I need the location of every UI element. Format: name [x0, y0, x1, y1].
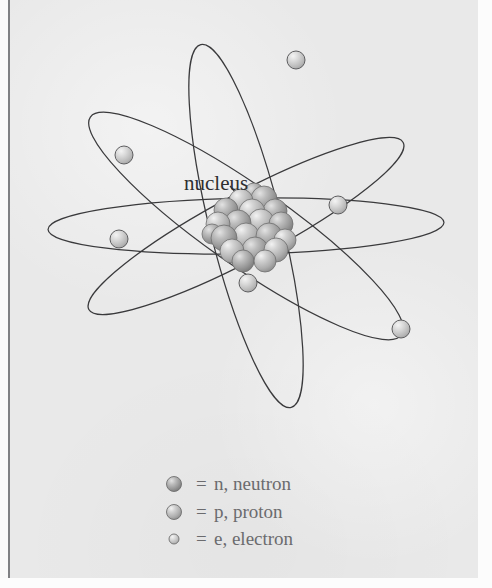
legend-label-proton: p, proton: [214, 501, 283, 522]
proton-particle: [254, 250, 276, 272]
legend-equals-sign-proton: =: [196, 501, 207, 522]
electron-lower-center: [239, 274, 257, 292]
neutron-sphere: [167, 477, 182, 492]
legend-equals-sign-electron: =: [196, 528, 207, 549]
proton-sphere: [167, 505, 182, 520]
nucleus-cluster: [202, 183, 296, 272]
electron-right: [329, 196, 347, 214]
electron-top: [287, 51, 305, 69]
neutron-particle: [232, 250, 254, 272]
atom-diagram-canvas: nucleus =n, neutron=p, proton=e, electro…: [0, 0, 492, 588]
legend-label-electron: e, electron: [214, 528, 294, 549]
electron-left: [110, 230, 128, 248]
legend-label-neutron: n, neutron: [214, 473, 292, 494]
electron-lower-right: [392, 320, 410, 338]
nucleus-label: nucleus: [184, 171, 248, 195]
legend: =n, neutron=p, proton=e, electron: [167, 473, 294, 549]
legend-equals-sign-neutron: =: [196, 473, 207, 494]
electron-sphere: [169, 534, 179, 544]
figure-page: nucleus =n, neutron=p, proton=e, electro…: [0, 0, 492, 588]
electron-upper-left: [115, 146, 133, 164]
